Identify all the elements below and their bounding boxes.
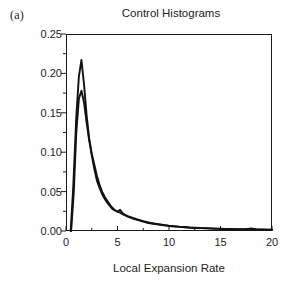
figure-panel: (a) Control Histograms 0.000.050.100.150… — [0, 0, 286, 291]
y-tick-label: 0.05 — [18, 186, 62, 198]
x-tick-label: 5 — [114, 236, 120, 248]
y-tick-label: 0.25 — [18, 28, 62, 40]
chart-title: Control Histograms — [62, 7, 280, 19]
y-tick-label: 0.00 — [18, 225, 62, 237]
y-axis-tick-labels: 0.000.050.100.150.200.25 — [14, 0, 62, 291]
x-tick-label: 15 — [214, 236, 226, 248]
x-tick-label: 20 — [266, 236, 278, 248]
plot-frame — [66, 34, 272, 231]
x-tick-label: 10 — [163, 236, 175, 248]
x-tick-label: 0 — [63, 236, 69, 248]
y-tick-label: 0.15 — [18, 107, 62, 119]
y-tick-label: 0.20 — [18, 67, 62, 79]
y-tick-label: 0.10 — [18, 146, 62, 158]
x-axis-title: Local Expansion Rate — [66, 262, 272, 274]
